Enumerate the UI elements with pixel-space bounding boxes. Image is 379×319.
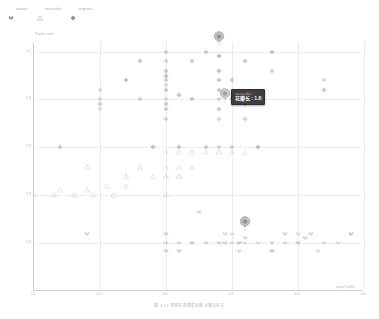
data-point-setosa[interactable] [163,248,169,254]
data-point-versicolor[interactable] [176,164,182,170]
data-point-setosa[interactable] [163,231,169,237]
data-point-virginica[interactable] [137,58,143,64]
data-point-setosa[interactable] [229,240,235,246]
data-point-setosa[interactable] [229,231,235,237]
data-point-virginica[interactable] [163,116,169,122]
plot-area[interactable]: versicolor花瓣长 : 1.8 [33,42,363,291]
data-point-setosa[interactable] [176,240,182,246]
data-point-virginica[interactable] [57,144,63,150]
data-point-versicolor[interactable] [150,173,156,179]
data-point-versicolor[interactable] [189,149,195,155]
data-point-virginica[interactable] [150,144,156,150]
data-point-virginica[interactable] [216,106,222,112]
data-point-setosa[interactable] [335,240,341,246]
data-point-setosa[interactable] [269,240,275,246]
data-point-virginica[interactable] [269,68,275,74]
data-point-versicolor[interactable] [229,149,235,155]
data-point-setosa[interactable] [242,240,248,246]
data-point-setosa[interactable] [163,240,169,246]
data-point-setosa[interactable] [315,248,321,254]
data-point-setosa[interactable] [282,231,288,237]
data-point-versicolor[interactable] [216,149,222,155]
data-point-versicolor[interactable] [163,192,169,198]
data-point-versicolor[interactable] [71,192,77,198]
data-point-virginica[interactable] [216,68,222,74]
data-point-setosa[interactable] [236,240,242,246]
data-point-virginica[interactable] [163,58,169,64]
gridline-horizontal [34,243,363,244]
data-point-virginica[interactable] [321,87,327,93]
legend-label-virginica: virginica [78,8,93,12]
data-point-versicolor[interactable] [104,183,110,189]
data-point-virginica[interactable] [137,96,143,102]
data-point-virginica[interactable] [216,77,222,83]
data-point-setosa[interactable] [216,240,222,246]
data-point-setosa[interactable] [308,231,314,237]
data-point-setosa[interactable] [196,209,202,215]
data-point-versicolor[interactable] [90,192,96,198]
data-point-setosa[interactable] [295,240,301,246]
legend-item-setosa[interactable]: setosa [8,7,28,13]
data-point-versicolor[interactable] [84,164,90,170]
legend-item-virginica[interactable]: virginica [70,7,93,13]
y-tick-label: 2.0 [5,98,31,102]
legend-item-versicolor[interactable]: versicolor [37,7,62,13]
data-point-setosa[interactable] [321,240,327,246]
data-point-virginica[interactable] [242,58,248,64]
y-axis-ticks: 0.51.01.52.02.5 [0,42,31,291]
data-point-setosa[interactable] [176,248,182,254]
data-point-virginica[interactable] [216,116,222,122]
data-point-versicolor[interactable] [110,192,116,198]
data-point-virginica[interactable] [269,49,275,55]
gridline-horizontal [34,195,363,196]
data-point-versicolor[interactable] [31,192,37,198]
data-point-setosa[interactable] [302,235,308,241]
data-point-setosa[interactable] [282,240,288,246]
data-point-virginica[interactable] [189,58,195,64]
data-point-versicolor[interactable] [203,149,209,155]
data-point-versicolor[interactable] [176,173,182,179]
data-point-setosa[interactable] [203,240,209,246]
data-point-setosa[interactable] [84,231,90,237]
data-point-versicolor[interactable] [123,173,129,179]
data-point-virginica[interactable] [229,77,235,83]
data-point-virginica[interactable] [97,87,103,93]
data-point-versicolor[interactable] [51,192,57,198]
data-point-virginica[interactable] [242,116,248,122]
gridline-vertical [100,42,101,290]
data-point-versicolor[interactable] [163,164,169,170]
data-point-setosa[interactable] [348,231,354,237]
data-point-versicolor[interactable] [163,173,169,179]
data-point-versicolor[interactable] [137,164,143,170]
data-point-virginica[interactable] [189,96,195,102]
data-point-setosa[interactable] [269,248,275,254]
data-point-versicolor[interactable] [176,149,182,155]
data-point-virginica[interactable] [321,77,327,83]
map-pin-top[interactable] [213,31,224,47]
data-point-virginica[interactable] [176,92,182,98]
data-point-virginica[interactable] [216,53,222,59]
map-pin-bottom[interactable] [240,216,251,232]
data-point-setosa[interactable] [295,231,301,237]
data-point-setosa[interactable] [255,240,261,246]
data-point-setosa[interactable] [222,231,228,237]
data-point-versicolor[interactable] [242,149,248,155]
data-point-virginica[interactable] [163,106,169,112]
y-axis-title: Petal truth [35,33,54,37]
data-point-virginica[interactable] [163,87,169,93]
data-point-versicolor[interactable] [163,149,169,155]
data-point-versicolor[interactable] [57,187,63,193]
data-point-virginica[interactable] [203,49,209,55]
data-point-setosa[interactable] [222,240,228,246]
data-point-versicolor[interactable] [189,164,195,170]
data-point-versicolor[interactable] [84,187,90,193]
data-point-virginica[interactable] [163,49,169,55]
data-point-setosa[interactable] [236,248,242,254]
map-pin-hovered[interactable] [220,88,231,104]
data-point-setosa[interactable] [189,240,195,246]
data-point-virginica[interactable] [255,144,261,150]
data-point-virginica[interactable] [123,77,129,83]
data-point-versicolor[interactable] [123,183,129,189]
gridline-horizontal [34,99,363,100]
data-point-virginica[interactable] [97,106,103,112]
